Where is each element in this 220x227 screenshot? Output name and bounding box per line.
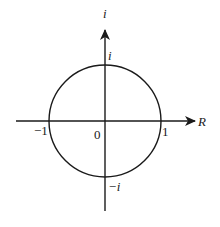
negative-real-label: −1	[34, 123, 48, 138]
complex-plane-diagram: i R i −i 0 −1 1	[0, 0, 220, 227]
positive-real-label: 1	[162, 124, 169, 139]
real-axis-label: R	[197, 114, 206, 129]
positive-imag-label: i	[108, 48, 112, 63]
origin-label: 0	[94, 127, 101, 142]
imaginary-axis-label: i	[103, 6, 107, 21]
negative-imag-label: −i	[108, 179, 121, 194]
